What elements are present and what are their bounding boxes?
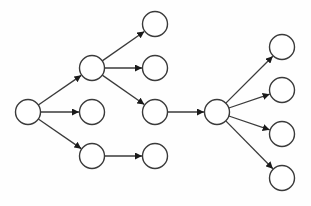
graph-node-n10 [270,78,295,103]
graph-node-n12 [270,166,295,191]
node-layer [16,12,295,191]
graph-node-n5 [143,56,168,81]
edge-arrow-n0-n3 [38,119,81,149]
graph-node-n6 [143,100,168,125]
graph-node-n3 [80,144,105,169]
graph-node-n4 [143,12,168,37]
graph-node-n1 [80,56,105,81]
graph-node-n2 [80,100,105,125]
edge-arrow-n0-n1 [38,75,81,105]
edge-arrow-n1-n6 [102,75,144,104]
graph-node-n9 [270,35,295,60]
edge-arrow-n8-n11 [229,116,270,130]
graph-node-n8 [205,100,230,125]
graph-node-n0 [16,100,41,125]
edge-arrow-n8-n10 [229,94,270,108]
tree-diagram [0,0,311,206]
edge-arrow-n1-n4 [102,31,144,60]
graph-node-n11 [270,122,295,147]
graph-node-n7 [143,144,168,169]
